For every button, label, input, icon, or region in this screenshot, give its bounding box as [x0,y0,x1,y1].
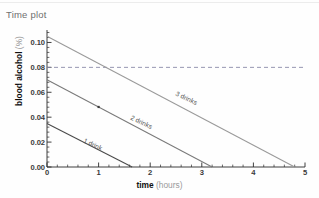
x-tick-label: 2 [148,168,152,177]
y-tick-label: 0.08 [31,63,45,72]
y-axis-title: blood alcohol (%) [14,11,24,131]
x-tick-label: 1 [96,168,100,177]
x-tick-label: 5 [303,168,307,177]
y-tick-label: 0.00 [31,163,45,172]
x-axis-unit: (hours) [156,180,183,190]
y-tick-label: 0.02 [31,138,45,147]
x-tick-label: 3 [200,168,204,177]
time-plot-panel: Time plot 0.000.020.040.060.080.10 1 dri… [0,0,319,198]
y-tick-label: 0.04 [31,113,45,122]
data-point-marker [98,106,100,108]
series-line [47,36,295,167]
y-tick-label: 0.06 [31,88,45,97]
x-tick-label: 0 [45,168,49,177]
chart-canvas [47,30,305,167]
top-divider [0,2,319,3]
series-line [47,80,212,167]
y-axis-unit: (%) [14,36,24,49]
x-tick-label: 4 [251,168,255,177]
x-axis-title: time (hours) [0,180,319,190]
y-axis-title-text: blood alcohol [14,51,24,105]
x-axis-title-text: time [136,180,153,190]
chart-svg [47,30,305,167]
y-tick-label: 0.10 [31,38,45,47]
chart-plot-area: 1 drink2 drinks3 drinks [47,30,305,167]
page-title: Time plot [6,9,47,20]
